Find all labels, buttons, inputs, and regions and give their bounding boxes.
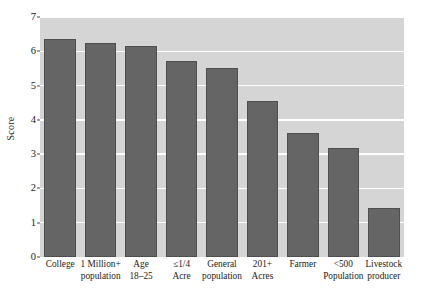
x-axis-tick-label: Livestockproducer xyxy=(358,259,410,282)
y-axis-tick-label: 7 xyxy=(31,12,36,23)
y-axis-tick-label: 4 xyxy=(31,115,36,126)
bar xyxy=(328,148,360,257)
bar xyxy=(206,68,238,257)
y-axis: 01234567 xyxy=(20,17,40,257)
bar-chart-figure: Score 01234567 College1 Million+populati… xyxy=(0,0,424,301)
y-axis-tick-label: 5 xyxy=(31,80,36,91)
y-axis-title: Score xyxy=(2,0,20,257)
bar xyxy=(44,39,76,257)
bars-group xyxy=(40,17,404,257)
x-axis-tick-label-line: Acres xyxy=(236,271,288,283)
y-axis-tick-label: 1 xyxy=(31,217,36,228)
x-axis-labels: College1 Million+populationAge18–25≤1/4A… xyxy=(40,259,404,299)
y-axis-tick-label: 2 xyxy=(31,183,36,194)
x-axis-tick-label-line: Livestock xyxy=(358,259,410,271)
bar xyxy=(247,101,279,257)
bar xyxy=(287,133,319,257)
y-axis-tick-label: 3 xyxy=(31,149,36,160)
y-axis-title-label: Score xyxy=(6,117,17,141)
bar xyxy=(166,61,198,257)
y-axis-tick-label: 6 xyxy=(31,46,36,57)
bar xyxy=(125,46,157,257)
bar xyxy=(368,208,400,257)
x-axis-tick-label-line: producer xyxy=(358,271,410,283)
bar xyxy=(85,43,117,257)
plot-area xyxy=(40,17,404,257)
